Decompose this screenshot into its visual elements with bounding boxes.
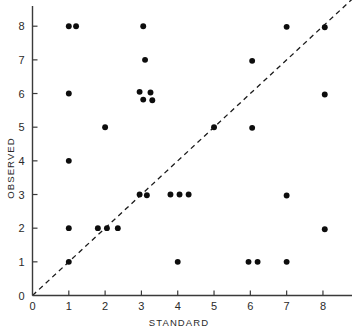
data-point — [246, 259, 252, 265]
data-point — [144, 192, 150, 198]
x-tick-label: 2 — [102, 300, 108, 312]
y-tick-label: 4 — [18, 155, 24, 167]
y-axis-ticks: 012345678 — [18, 20, 37, 301]
x-tick-label: 0 — [29, 300, 35, 312]
data-point — [102, 124, 108, 130]
data-point — [284, 24, 290, 30]
x-tick-label: 6 — [247, 300, 253, 312]
x-axis-title: STANDARD — [149, 317, 209, 328]
data-point — [249, 58, 255, 64]
x-tick-label: 5 — [211, 300, 217, 312]
data-point — [211, 124, 217, 130]
data-point — [115, 225, 121, 231]
data-point — [177, 192, 183, 198]
y-tick-label: 8 — [18, 20, 24, 32]
y-tick-label: 1 — [18, 256, 24, 268]
data-point — [175, 259, 181, 265]
data-point — [140, 23, 146, 29]
data-point — [66, 158, 72, 164]
data-point — [284, 193, 290, 199]
data-point — [168, 192, 174, 198]
axes-group — [33, 6, 353, 296]
y-tick-label: 6 — [18, 88, 24, 100]
y-tick-label: 2 — [18, 222, 24, 234]
x-tick-label: 1 — [66, 300, 72, 312]
data-point — [66, 91, 72, 97]
data-point — [322, 92, 328, 98]
data-points-group — [66, 23, 328, 265]
data-point — [142, 57, 148, 63]
data-point — [255, 259, 261, 265]
data-point — [322, 24, 328, 30]
identity-reference-line — [33, 0, 353, 295]
data-point — [73, 23, 79, 29]
data-point — [137, 192, 143, 198]
data-point — [66, 225, 72, 231]
data-point — [284, 259, 290, 265]
x-tick-label: 8 — [320, 300, 326, 312]
data-point — [140, 97, 146, 103]
x-tick-label: 3 — [138, 300, 144, 312]
data-point — [95, 225, 101, 231]
y-tick-label: 5 — [18, 121, 24, 133]
y-tick-label: 3 — [18, 189, 24, 201]
x-tick-label: 4 — [175, 300, 181, 312]
data-point — [66, 23, 72, 29]
data-point — [186, 192, 192, 198]
data-point — [137, 89, 143, 95]
y-tick-label: 7 — [18, 54, 24, 66]
data-point — [104, 225, 110, 231]
data-point — [148, 90, 154, 96]
y-tick-label: 0 — [18, 290, 24, 302]
data-point — [66, 259, 72, 265]
data-point — [322, 226, 328, 232]
plot-canvas: 012345678 012345678 STANDARD OBSERVED — [0, 0, 358, 331]
data-point — [149, 97, 155, 103]
x-tick-label: 7 — [284, 300, 290, 312]
y-axis-title: OBSERVED — [5, 137, 16, 198]
data-point — [249, 125, 255, 131]
scatter-plot-figure: 012345678 012345678 STANDARD OBSERVED — [0, 0, 358, 331]
x-axis-ticks: 012345678 — [29, 291, 326, 312]
